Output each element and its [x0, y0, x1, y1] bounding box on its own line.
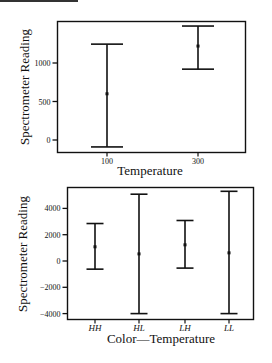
chart-canvas: 05001000 100300 Temperature Spectrometer…	[0, 0, 272, 363]
error-bar-HH	[87, 224, 104, 270]
x-tick-label: 100	[101, 157, 113, 166]
error-bars	[91, 26, 214, 147]
mean-marker	[106, 92, 109, 95]
y-axis-title: Spectrometer Reading	[17, 29, 32, 145]
x-tick-label: LL	[223, 323, 234, 333]
mean-marker	[94, 245, 97, 248]
error-bar-LH	[177, 220, 194, 268]
mean-marker	[197, 45, 200, 48]
y-tick-label: 1000	[35, 59, 51, 68]
y-tick-label: −4000	[40, 310, 61, 319]
error-bar-HL	[131, 194, 148, 313]
error-bar-LL	[221, 191, 238, 313]
chart-temperature: 05001000 100300 Temperature Spectrometer…	[17, 22, 246, 179]
mean-marker	[184, 243, 187, 246]
x-axis-title: Temperature	[117, 163, 183, 178]
x-tick-label: 300	[192, 157, 204, 166]
mean-marker	[138, 252, 141, 255]
y-tick-label: 4000	[45, 204, 61, 213]
y-tick-label: 500	[39, 98, 51, 107]
error-bar-100	[91, 44, 123, 147]
y-tick-label: 0	[57, 257, 61, 266]
x-axis-title: Color—Temperature	[107, 331, 215, 346]
error-bars	[87, 191, 238, 313]
plot-frame	[58, 22, 246, 153]
chart-color-temperature: −4000−2000020004000 HHHLLHLL Color—Tempe…	[15, 188, 254, 347]
y-axis-title: Spectrometer Reading	[15, 196, 30, 312]
y-tick-label: 2000	[45, 231, 61, 240]
y-tick-label: −2000	[40, 283, 61, 292]
x-tick-label: HH	[88, 323, 102, 333]
error-bar-300	[182, 26, 214, 69]
y-axis: −4000−2000020004000	[40, 204, 68, 318]
mean-marker	[228, 251, 231, 254]
y-axis: 05001000	[35, 59, 58, 145]
y-tick-label: 0	[47, 136, 51, 145]
